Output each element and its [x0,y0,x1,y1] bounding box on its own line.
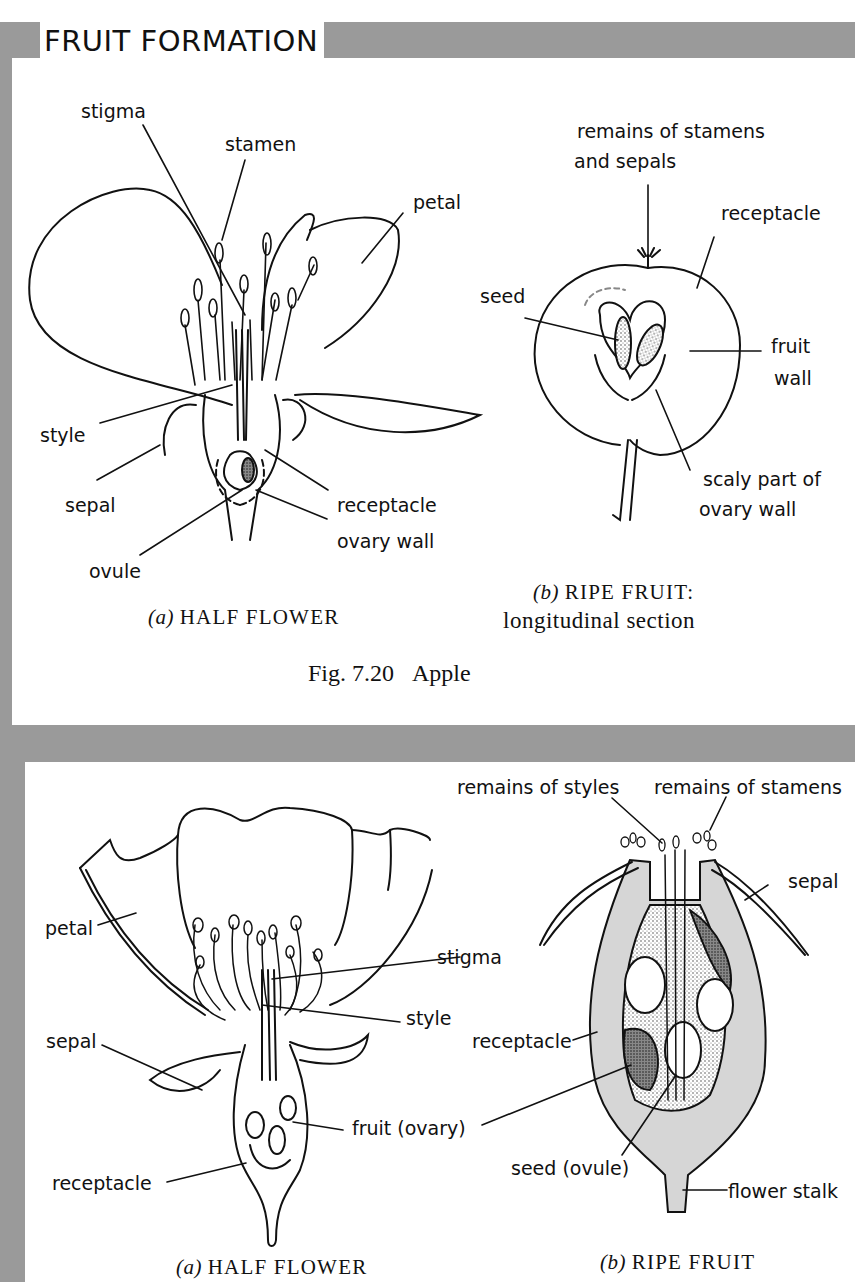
caption-text: HALF FLOWER [208,1255,368,1279]
label-ovule: ovule [89,560,141,582]
label-wall: wall [774,367,812,389]
label-style: style [40,424,86,446]
label-stamen: stamen [225,133,296,155]
caption-top-a: (a) HALF FLOWER [148,605,339,630]
caption-letter: (b) [533,580,559,604]
apple-half-flower-drawing [29,125,480,555]
label-sepal-bottom: sepal [46,1030,97,1052]
label-receptacle: receptacle [337,494,437,516]
caption-bottom-a: (a) HALF FLOWER [176,1255,367,1280]
label-and-sepals: and sepals [574,150,676,172]
label-fruit-ovary: fruit (ovary) [352,1117,466,1139]
label-remains-of-stamens: remains of stamens [577,120,765,142]
label-ovary-wall: ovary wall [337,530,434,552]
label-flower-stalk: flower stalk [728,1180,838,1202]
caption-text: RIPE FRUIT: [565,580,694,604]
label-sepal-fruit: sepal [788,870,839,892]
ripe-fruit-drawing [482,797,808,1212]
caption-text: HALF FLOWER [180,605,340,629]
label-seed-ovule: seed (ovule) [511,1157,629,1179]
label-stigma: stigma [81,100,146,122]
caption-letter: (a) [176,1255,202,1279]
label-receptacle-fruit: receptacle [721,202,821,224]
label-ovary-wall-b: ovary wall [699,498,796,520]
label-petal-bottom: petal [45,917,93,939]
label-petal: petal [413,191,461,213]
figure-number: Fig. 7.20 [308,660,394,686]
label-remains-of-styles: remains of styles [457,776,619,798]
caption-bottom-b: (b) RIPE FRUIT [600,1250,755,1275]
label-fruit: fruit [771,335,810,357]
caption-letter: (b) [600,1250,626,1274]
label-stigma-bottom: stigma [437,946,502,968]
caption-top-b: (b) RIPE FRUIT: [533,580,694,605]
label-receptacle-fruit-bottom: receptacle [472,1030,572,1052]
label-seed: seed [480,285,525,307]
label-style-bottom: style [406,1007,452,1029]
figure-subject: Apple [412,660,471,686]
label-scaly-part: scaly part of [703,468,821,490]
caption-top-b-line2: longitudinal section [503,608,695,634]
label-remains-of-stamens-bottom: remains of stamens [654,776,842,798]
label-receptacle-bottom: receptacle [52,1172,152,1194]
label-sepal: sepal [65,494,116,516]
caption-text: RIPE FRUIT [632,1250,755,1274]
caption-letter: (a) [148,605,174,629]
figure-caption: Fig. 7.20 Apple [308,660,471,687]
